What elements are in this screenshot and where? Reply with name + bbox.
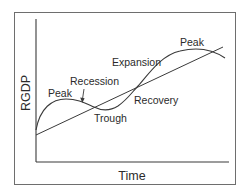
label-recovery: Recovery [134,94,179,106]
label-peak-first: Peak [48,87,73,99]
label-recession: Recession [70,75,119,87]
label-peak-second: Peak [180,36,205,48]
label-expansion: Expansion [112,56,161,68]
x-axis-title: Time [118,169,145,183]
business-cycle-diagram: Peak Recession Trough Recovery Expansion… [0,0,244,191]
label-trough: Trough [94,112,127,124]
y-axis-title: RGDP [19,75,33,111]
